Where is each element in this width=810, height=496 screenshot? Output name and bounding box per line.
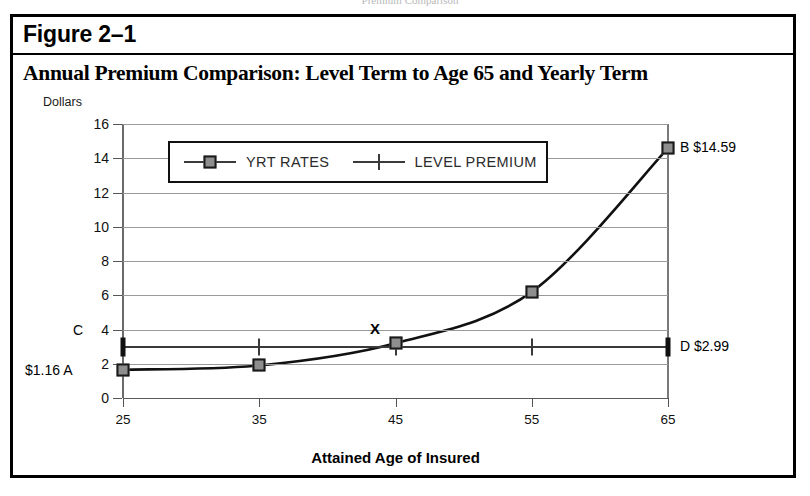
x-tick-label-35: 35: [252, 412, 267, 427]
y-tick-label-0: 0: [101, 390, 109, 406]
x-tick-35: [259, 398, 260, 407]
y-tick-label-2: 2: [101, 356, 109, 372]
y-tick-6: [113, 295, 122, 296]
y-tick-label-16: 16: [93, 116, 109, 132]
y-axis-unit-label: Dollars: [43, 95, 82, 109]
yrt-data-point-age-45[interactable]: [389, 337, 402, 350]
gridline-y-4: [123, 330, 668, 331]
y-tick-12: [113, 193, 122, 194]
y-tick-label-4: 4: [101, 322, 109, 338]
gridline-y-16: [123, 124, 668, 125]
x-tick-55: [532, 398, 533, 407]
x-tick-label-45: 45: [388, 412, 403, 427]
page-bleed-text: Premium Comparison: [250, 0, 570, 8]
legend-item-yrt[interactable]: YRT RATES: [170, 154, 339, 170]
y-tick-10: [113, 227, 122, 228]
x-tick-25: [123, 398, 124, 407]
figure-header: Figure 2–1: [13, 17, 793, 55]
chart-legend: YRT RATES LEVEL PREMIUM: [168, 141, 548, 183]
x-tick-label-65: 65: [660, 412, 675, 427]
x-tick-65: [668, 398, 669, 407]
annotation-point-a: $1.16 A: [25, 362, 73, 378]
level-premium-marker-25: [121, 337, 126, 356]
figure-title: Annual Premium Comparison: Level Term to…: [23, 61, 787, 86]
gridline-y-12: [123, 193, 668, 194]
gridline-y-2: [123, 364, 668, 365]
page-bleed: Premium Comparison: [0, 0, 810, 14]
level-premium-marker-65: [666, 337, 671, 356]
annotation-crossover-x: X: [370, 320, 380, 337]
y-tick-label-10: 10: [93, 219, 109, 235]
level-premium-marker-55: [531, 338, 533, 355]
y-tick-14: [113, 158, 122, 159]
y-tick-8: [113, 261, 122, 262]
legend-label-yrt: YRT RATES: [246, 154, 329, 170]
gridline-y-8: [123, 261, 668, 262]
legend-item-level-premium[interactable]: LEVEL PREMIUM: [339, 154, 546, 170]
annotation-point-d: D $2.99: [680, 338, 729, 354]
y-tick-label-14: 14: [93, 150, 109, 166]
yrt-data-point-age-35[interactable]: [253, 359, 266, 372]
legend-label-level-premium: LEVEL PREMIUM: [415, 154, 537, 170]
y-tick-label-12: 12: [93, 185, 109, 201]
y-tick-label-8: 8: [101, 253, 109, 269]
y-tick-0: [113, 398, 122, 399]
yrt-data-point-age-55[interactable]: [525, 285, 538, 298]
y-tick-4: [113, 330, 122, 331]
yrt-data-point-age-65[interactable]: [662, 142, 675, 155]
x-tick-label-55: 55: [524, 412, 539, 427]
x-tick-45: [396, 398, 397, 407]
level-premium-marker-35: [258, 338, 260, 355]
gridline-y-10: [123, 227, 668, 228]
figure-label: Figure 2–1: [23, 21, 136, 48]
tick-marker-icon: [353, 154, 405, 170]
yrt-data-point-age-25[interactable]: [117, 363, 130, 376]
x-axis-title: Attained Age of Insured: [123, 449, 668, 466]
square-marker-icon: [184, 154, 236, 170]
annotation-point-b: B $14.59: [680, 139, 736, 155]
x-tick-label-25: 25: [115, 412, 130, 427]
figure-box: Figure 2–1 Annual Premium Comparison: Le…: [10, 14, 796, 478]
y-tick-label-6: 6: [101, 287, 109, 303]
gridline-y-6: [123, 295, 668, 296]
annotation-point-c: C: [73, 322, 83, 338]
y-tick-16: [113, 124, 122, 125]
